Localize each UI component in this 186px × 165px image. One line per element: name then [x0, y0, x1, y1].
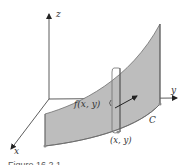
y-axis-label: y [170, 85, 177, 95]
x-axis [11, 99, 49, 149]
curtain-surface [45, 24, 160, 146]
height-label: f(x, y) [73, 99, 101, 109]
point-dot-start [44, 145, 47, 148]
z-axis-label: z [55, 9, 61, 19]
curve-label: C [149, 115, 156, 125]
point-dot-xy [117, 131, 120, 134]
point-dot-end [159, 103, 162, 106]
curtain-surface-figure: z y x C f(x, y) (x, y) Figure 16.2.1 [0, 0, 186, 165]
point-label: (x, y) [110, 135, 132, 145]
x-axis-label: x [14, 146, 19, 156]
figure-caption: Figure 16.2.1 [8, 160, 61, 165]
